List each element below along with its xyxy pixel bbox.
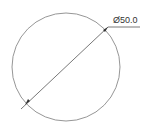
diameter-dimension-line[interactable] (21, 27, 108, 109)
drawing-canvas: Ø50.0 (0, 0, 149, 127)
diameter-label[interactable]: Ø50.0 (113, 15, 138, 25)
arrowhead-bottom-icon (25, 99, 30, 105)
